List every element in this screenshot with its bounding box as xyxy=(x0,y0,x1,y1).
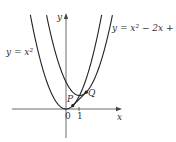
curve1-label: y = x² xyxy=(6,48,33,57)
origin-label: 0 xyxy=(65,112,71,121)
x-axis-label: x xyxy=(117,113,122,122)
point-P-label: P xyxy=(67,95,73,104)
curve-x-squared-minus-2x-plus-2 xyxy=(47,15,113,95)
y-axis-arrow-icon xyxy=(64,13,68,19)
tick-1-label: 1 xyxy=(77,112,83,121)
point-P xyxy=(71,104,74,107)
figure: y x y = x² y = x² − 2x + 2 0 1 P Q xyxy=(0,0,176,142)
plot-canvas xyxy=(0,0,176,142)
x-axis-arrow-icon xyxy=(116,107,122,111)
y-axis-label: y xyxy=(57,13,62,22)
curve2-label: y = x² − 2x + 2 xyxy=(112,24,176,33)
point-Q-label: Q xyxy=(88,89,95,98)
